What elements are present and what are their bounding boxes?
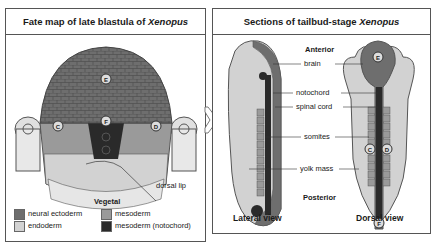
svg-text:C: C (56, 124, 61, 130)
svg-text:E: E (104, 77, 108, 83)
svg-text:D: D (385, 147, 390, 153)
legend-swatch-neural-ectoderm (14, 209, 25, 220)
svg-text:C: C (368, 147, 373, 153)
legend-label-neural-ectoderm: neural ectoderm (28, 209, 82, 218)
dorsal-lip-label: dorsal lip (156, 181, 186, 190)
vegetal-pole-label: Vegetal (94, 197, 120, 206)
svg-text:D: D (154, 124, 159, 130)
posterior-label: Posterior (303, 193, 336, 202)
somites-label: somites (304, 132, 330, 141)
blastula-illustration: E F C D (6, 9, 205, 241)
legend-label-endoderm: endoderm (28, 221, 62, 230)
fate-map-panel: Fate map of late blastula of Xenopus Ani… (5, 8, 206, 242)
spinal-cord-label: spinal cord (296, 102, 332, 111)
svg-text:F: F (104, 119, 108, 125)
brain-label: brain (304, 59, 321, 68)
notochord-label: notochord (296, 88, 329, 97)
svg-text:E: E (376, 55, 380, 61)
legend-swatch-mesoderm (101, 209, 112, 220)
tailbud-panel: Sections of tailbud-stage Xenopus Anteri… (212, 8, 431, 234)
legend-label-notochord: mesoderm (notochord) (115, 221, 191, 230)
dorsal-view-label: Dorsal view (356, 213, 403, 223)
yolk-mass-label: yolk mass (300, 164, 333, 173)
legend-label-mesoderm: mesoderm (115, 209, 150, 218)
legend-swatch-endoderm (14, 221, 25, 232)
legend-swatch-notochord (101, 221, 112, 232)
lateral-view-label: Lateral view (233, 213, 282, 223)
